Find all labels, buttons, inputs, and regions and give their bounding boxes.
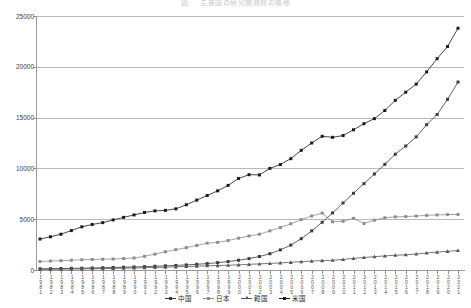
data-point (206, 242, 209, 245)
y-axis-tick-mark (33, 16, 37, 17)
data-point (342, 134, 345, 137)
data-point (362, 122, 365, 125)
data-point (122, 257, 125, 260)
x-axis-tick-label: 1989 (121, 274, 126, 294)
x-axis-tick-label: 2002 (257, 274, 262, 294)
data-point (352, 217, 355, 220)
legend-label: 中国 (178, 295, 192, 302)
data-point (289, 157, 292, 160)
legend-item-米国[interactable]: 米国 (279, 295, 306, 302)
data-point (457, 81, 460, 84)
data-point (383, 109, 386, 112)
x-axis-tick-label: 2006 (299, 274, 304, 294)
x-axis-tick-label: 2009 (330, 274, 335, 294)
data-point (164, 250, 167, 253)
y-axis-tick-mark (33, 219, 37, 220)
x-axis-tick-label: 1992 (153, 274, 158, 294)
data-point (237, 177, 240, 180)
data-point (112, 258, 115, 261)
data-point (436, 57, 439, 60)
x-axis-tick-label: 2019 (435, 274, 440, 294)
data-point (352, 192, 355, 195)
data-point (404, 215, 407, 218)
x-axis-tick-label: 2003 (268, 274, 273, 294)
data-point (300, 237, 303, 240)
data-point (101, 258, 104, 261)
x-axis-tick-label: 2011 (351, 274, 356, 294)
data-point (80, 258, 83, 261)
data-point (425, 214, 428, 217)
data-point (331, 211, 334, 214)
data-point (91, 258, 94, 261)
data-point (457, 27, 460, 30)
data-point (39, 260, 42, 263)
data-point (342, 220, 345, 223)
data-point (436, 113, 439, 116)
data-point (258, 233, 261, 236)
data-point (310, 142, 313, 145)
x-axis-line (36, 270, 465, 271)
data-point (133, 257, 136, 260)
data-point (268, 167, 271, 170)
data-point (195, 244, 198, 247)
data-point (143, 255, 146, 258)
x-axis-tick-label: 2014 (383, 274, 388, 294)
data-point (195, 199, 198, 202)
x-axis-tick-label: 2018 (424, 274, 429, 294)
data-point (237, 237, 240, 240)
data-point (415, 215, 418, 218)
legend-item-日本[interactable]: 日本 (203, 295, 230, 302)
data-point (446, 45, 449, 48)
data-point (373, 219, 376, 222)
chart-container: 図 主要国の研究開発費の推移 0500010000150002000025000… (0, 0, 471, 308)
legend-label: 米国 (292, 295, 306, 302)
x-axis-tick-label: 2021 (456, 274, 461, 294)
x-axis-tick-label: 1990 (132, 274, 137, 294)
data-point (373, 172, 376, 175)
legend-item-韓国[interactable]: 韓国 (241, 295, 268, 302)
y-axis-tick-label: 25000 (0, 13, 34, 20)
data-point (352, 128, 355, 131)
data-point (383, 216, 386, 219)
x-axis-tick-label: 2012 (362, 274, 367, 294)
data-point (101, 221, 104, 224)
data-point (404, 145, 407, 148)
x-axis-tick-label: 1994 (174, 274, 179, 294)
x-axis-tick-label: 1995 (184, 274, 189, 294)
x-axis-tick-label: 1984 (69, 274, 74, 294)
data-point (425, 70, 428, 73)
data-point (279, 248, 282, 251)
data-point (49, 235, 52, 238)
data-point (321, 221, 324, 224)
data-point (289, 244, 292, 247)
x-axis-tick-label: 1981 (38, 274, 43, 294)
data-point (457, 213, 460, 216)
data-point (279, 163, 282, 166)
data-point (206, 194, 209, 197)
data-point (310, 229, 313, 232)
data-point (216, 189, 219, 192)
data-point (321, 135, 324, 138)
y-axis-tick-label: 15000 (0, 114, 34, 121)
x-axis-tick-label: 2005 (289, 274, 294, 294)
y-axis-tick-mark (33, 67, 37, 68)
y-axis-tick-mark (33, 270, 37, 271)
chart-title: 図 主要国の研究開発費の推移 (0, 0, 471, 7)
data-point (268, 252, 271, 255)
y-axis-tick-mark (33, 118, 37, 119)
x-axis-tick-label: 1985 (80, 274, 85, 294)
x-axis-tick-label: 1998 (215, 274, 220, 294)
data-point (248, 173, 251, 176)
x-axis-tick-label: 2020 (445, 274, 450, 294)
data-point (279, 226, 282, 229)
data-point (164, 209, 167, 212)
data-point (185, 203, 188, 206)
legend-marker-icon (241, 296, 252, 302)
data-point (185, 246, 188, 249)
data-point (362, 222, 365, 225)
data-point (446, 213, 449, 216)
legend-item-中国[interactable]: 中国 (165, 295, 192, 302)
x-axis-tick-label: 1991 (142, 274, 147, 294)
x-axis-tick-label: 1983 (59, 274, 64, 294)
data-point (300, 218, 303, 221)
